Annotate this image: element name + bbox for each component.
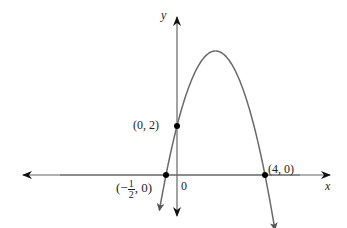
point-label-0-2: (0, 2) — [133, 118, 159, 133]
graph-canvas — [0, 0, 347, 228]
point-0-2 — [174, 123, 180, 129]
point-label-4-0: (4, 0) — [268, 162, 294, 177]
x-axis-label: x — [325, 179, 330, 194]
point-neg-half-0 — [163, 172, 169, 178]
origin-label: 0 — [181, 179, 187, 194]
parabola-curve — [159, 51, 215, 210]
y-axis-label: y — [161, 8, 166, 23]
point-label-neg-half-0: (−12, 0) — [116, 179, 152, 200]
